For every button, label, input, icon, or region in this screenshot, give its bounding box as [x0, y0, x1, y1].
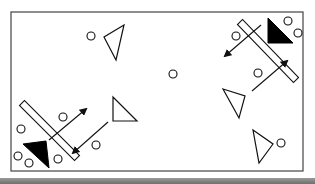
- diagram-canvas: [0, 0, 315, 184]
- diagram-frame: [11, 12, 303, 171]
- open-triangle: [113, 97, 137, 121]
- circle-marker: [92, 141, 100, 149]
- open-triangle: [104, 25, 124, 60]
- barrier-group: [20, 20, 299, 161]
- circle-marker: [294, 29, 302, 37]
- arrow-group: [49, 25, 287, 153]
- open-triangle: [253, 130, 273, 163]
- circle-marker: [25, 159, 33, 167]
- circle-marker: [254, 69, 262, 77]
- circle-marker: [54, 155, 62, 163]
- arrow: [73, 122, 108, 153]
- circle-marker: [14, 152, 22, 160]
- bottom-bar: [0, 178, 315, 184]
- circle-marker: [17, 125, 25, 133]
- circle-marker: [277, 139, 285, 147]
- circle-marker: [169, 70, 177, 78]
- arrow: [49, 109, 86, 140]
- circle-marker: [87, 32, 95, 40]
- open-triangle-group: [104, 25, 273, 163]
- open-triangle: [223, 89, 245, 118]
- circle-marker: [284, 17, 292, 25]
- circle-marker: [232, 32, 240, 40]
- circle-marker: [59, 113, 67, 121]
- barrier-rectangle: [20, 101, 80, 161]
